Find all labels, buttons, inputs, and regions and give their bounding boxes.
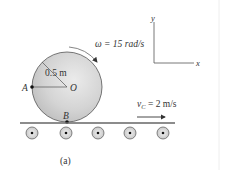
- belt-velocity-label: vC = 2 m/s: [137, 99, 177, 110]
- roller: [124, 127, 136, 139]
- figure-caption: (a): [60, 156, 71, 167]
- y-axis-label: y: [150, 13, 155, 23]
- roller: [26, 127, 38, 139]
- kinematics-diagram: ω = 15 rad/s 0.5 m A O B vC = 2 m/s y x …: [0, 0, 228, 170]
- point-a: [30, 85, 34, 89]
- velocity-value: = 2 m/s: [146, 99, 177, 109]
- roller: [92, 127, 104, 139]
- radius-label: 0.5 m: [45, 68, 67, 78]
- point-b-label: B: [63, 111, 69, 121]
- center-o-label: O: [70, 83, 77, 93]
- x-axis-label: x: [195, 58, 200, 68]
- coordinate-axes: [154, 22, 194, 63]
- omega-label: ω = 15 rad/s: [95, 39, 145, 49]
- roller: [60, 127, 72, 139]
- point-a-label: A: [21, 83, 28, 93]
- roller: [157, 127, 169, 139]
- rollers: [26, 127, 169, 139]
